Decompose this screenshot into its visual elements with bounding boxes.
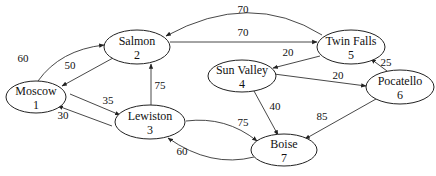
edge-lewiston-to-moscow: 30 (58, 106, 113, 126)
node-sun-valley: Sun Valley4 (208, 60, 276, 92)
node-name-label: Sun Valley (216, 63, 268, 77)
edge-weight-label: 20 (283, 46, 295, 58)
edge-weight-label: 60 (177, 145, 189, 157)
node-number-label: 4 (239, 77, 245, 91)
node-number-label: 3 (147, 123, 153, 137)
edge-lewiston-to-salmon: 75 (151, 64, 166, 105)
edge-weight-label: 20 (333, 69, 345, 81)
node-number-label: 5 (348, 48, 354, 62)
edge-weight-label: 35 (103, 94, 115, 106)
edge-weight-label: 70 (238, 26, 250, 38)
edge-sun-valley-to-pocatello: 20 (274, 69, 366, 86)
edge-sun-valley-to-boise: 40 (254, 91, 281, 135)
edge-pocatello-to-boise: 85 (305, 99, 376, 139)
node-number-label: 7 (281, 151, 287, 165)
edge-weight-label: 40 (270, 100, 282, 112)
node-twin-falls: Twin Falls5 (317, 30, 385, 64)
node-number-label: 2 (134, 48, 140, 62)
edge-weight-label: 25 (381, 56, 393, 68)
nodes: Moscow1Salmon2Lewiston3Sun Valley4Twin F… (6, 30, 434, 166)
node-lewiston: Lewiston3 (115, 105, 185, 139)
node-name-label: Moscow (15, 84, 57, 98)
node-name-label: Twin Falls (326, 34, 377, 48)
edges: 6050353075707020202540857560 (18, 3, 393, 160)
node-name-label: Lewiston (128, 109, 173, 123)
edge-twin-falls-to-sun-valley: 20 (273, 46, 320, 68)
edge-line (273, 56, 320, 68)
edge-moscow-to-salmon: 60 (18, 45, 105, 81)
edge-salmon-to-moscow: 50 (62, 58, 113, 86)
edge-weight-label: 70 (238, 3, 250, 15)
edge-weight-label: 30 (58, 109, 70, 121)
idaho-cities-graph: 6050353075707020202540857560 Moscow1Salm… (0, 0, 436, 176)
node-name-label: Salmon (119, 34, 156, 48)
node-number-label: 6 (397, 88, 403, 102)
node-number-label: 1 (33, 98, 39, 112)
node-pocatello: Pocatello6 (366, 70, 434, 104)
edge-line (254, 91, 278, 135)
edge-lewiston-to-boise: 75 (186, 116, 257, 141)
edge-weight-label: 60 (18, 52, 30, 64)
edge-salmon-to-twin-falls: 70 (170, 26, 317, 42)
edge-boise-to-lewiston: 60 (168, 138, 254, 160)
edge-weight-label: 50 (65, 59, 77, 71)
node-moscow: Moscow1 (6, 81, 66, 113)
edge-moscow-to-lewiston: 35 (70, 94, 120, 115)
edge-weight-label: 75 (238, 116, 250, 128)
node-name-label: Boise (270, 137, 297, 151)
edge-line (274, 74, 366, 86)
node-boise: Boise7 (251, 134, 317, 166)
edge-weight-label: 85 (317, 110, 329, 122)
node-salmon: Salmon2 (104, 30, 170, 64)
node-name-label: Pocatello (378, 74, 423, 88)
edge-weight-label: 75 (155, 79, 167, 91)
